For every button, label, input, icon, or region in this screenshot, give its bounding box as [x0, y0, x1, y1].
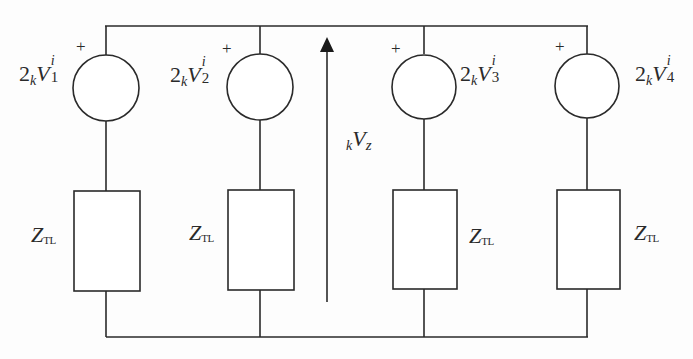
impedance-label-1: ZTL: [31, 224, 56, 246]
circuit-wires: [0, 0, 693, 359]
node-voltage-label: kVz: [346, 128, 372, 153]
impedance-3: [393, 190, 457, 289]
circuit-diagram: + + + + 2kVi1 2kVi2 2kVi3 2kVi4 kVz ZTL …: [0, 0, 693, 359]
impedance-label-3: ZTL: [469, 225, 494, 247]
source-label-1: 2kVi1: [19, 63, 60, 88]
node-voltage-arrow: [320, 37, 334, 302]
branch-3: [392, 26, 457, 337]
branch-4: [555, 26, 620, 337]
impedance-1: [74, 191, 140, 291]
impedance-label-2: ZTL: [189, 222, 214, 244]
voltage-source-1: [73, 55, 139, 121]
branch-2: [227, 26, 294, 337]
voltage-source-2: [227, 54, 293, 120]
impedance-2: [228, 190, 294, 290]
source-label-2: 2kVi2: [170, 64, 211, 89]
branch-1: [73, 26, 140, 337]
source-label-4: 2kVi4: [635, 63, 676, 88]
polarity-plus-4: +: [555, 38, 565, 55]
polarity-plus-2: +: [222, 40, 232, 57]
impedance-label-4: ZTL: [634, 222, 659, 244]
impedance-4: [557, 190, 620, 289]
polarity-plus-3: +: [391, 40, 401, 57]
polarity-plus-1: +: [76, 38, 86, 55]
voltage-source-3: [392, 55, 456, 119]
voltage-source-4: [555, 54, 619, 118]
source-label-3: 2kVi3: [460, 63, 501, 88]
